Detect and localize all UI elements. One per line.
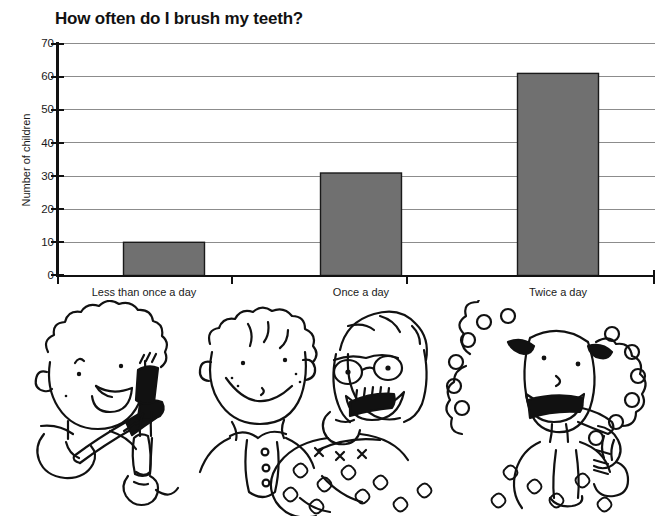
x-tick-label-once-a-day: Once a day	[281, 286, 441, 298]
bar-twice-a-day	[518, 73, 599, 275]
child-3-glasses	[271, 312, 432, 516]
bar-less-than-once-a-day	[124, 242, 205, 275]
plot-area	[0, 0, 667, 300]
dress-star-pattern	[492, 466, 612, 512]
child-2-short-hair	[123, 308, 316, 505]
x-tick-label-twice-a-day: Twice a day	[478, 286, 638, 298]
x-tick-label-less-than-once-a-day: Less than once a day	[64, 286, 224, 298]
bar-once-a-day	[321, 173, 402, 276]
child-4-curly-long-hair	[446, 300, 645, 512]
children-brushing-teeth-illustration	[0, 300, 667, 516]
bars	[124, 73, 599, 275]
bar-chart-figure: How often do I brush my teeth? Number of…	[0, 0, 667, 310]
shirt-star-pattern	[284, 464, 432, 514]
